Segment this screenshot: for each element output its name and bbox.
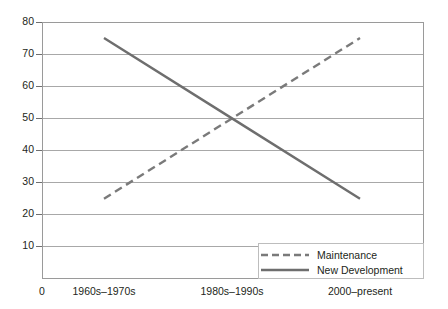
y-axis-label-50: 50	[4, 112, 34, 123]
x-axis-label-1980s-1990s: 1980s–1990s	[200, 285, 263, 297]
y-axis-label-60: 60	[4, 80, 34, 91]
gridline-70	[43, 54, 423, 55]
y-axis-label-80: 80	[4, 16, 34, 27]
x-axis-label-1960s-1970s: 1960s–1970s	[72, 285, 135, 297]
legend-label-new-development: New Development	[317, 264, 403, 276]
solid-line-icon	[259, 265, 311, 275]
y-tick-50	[36, 118, 42, 119]
y-axis-label-20: 20	[4, 208, 34, 219]
gridline-60	[43, 86, 423, 87]
y-tick-80	[36, 22, 42, 23]
legend-label-maintenance: Maintenance	[317, 249, 377, 261]
dashed-line-icon	[259, 250, 311, 260]
gridline-30	[43, 182, 423, 183]
y-tick-60	[36, 86, 42, 87]
y-tick-20	[36, 214, 42, 215]
y-axis-label-70: 70	[4, 48, 34, 59]
line-chart: 80 70 60 50 40 30 20 10 0 1960s–1970s 19…	[0, 0, 448, 309]
gridline-40	[43, 150, 423, 151]
x-axis-label-2000-present: 2000–present	[328, 285, 392, 297]
legend-item-maintenance: Maintenance	[259, 247, 417, 262]
y-tick-30	[36, 182, 42, 183]
y-tick-70	[36, 54, 42, 55]
y-axis-label-30: 30	[4, 176, 34, 187]
y-axis-origin-label: 0	[39, 285, 45, 297]
y-axis-label-40: 40	[4, 144, 34, 155]
legend-item-new-development: New Development	[259, 262, 417, 277]
plot-area	[42, 22, 424, 279]
chart-legend: Maintenance New Development	[258, 243, 424, 279]
y-axis-label-10: 10	[4, 240, 34, 251]
y-tick-10	[36, 246, 42, 247]
gridline-50	[43, 118, 423, 119]
gridline-20	[43, 214, 423, 215]
y-tick-40	[36, 150, 42, 151]
